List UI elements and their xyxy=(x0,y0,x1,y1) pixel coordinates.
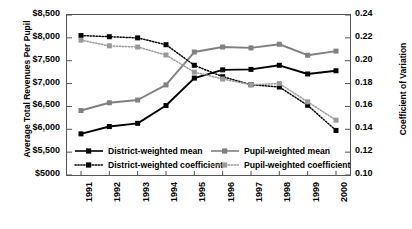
series-marker xyxy=(334,128,339,133)
series-marker xyxy=(249,82,254,87)
series-marker xyxy=(107,124,112,129)
y-axis-left-tick-label: $7,000 xyxy=(32,78,60,87)
y-axis-left-tick-label: $6,000 xyxy=(32,123,60,132)
series-marker xyxy=(220,45,225,50)
series-marker xyxy=(135,121,140,126)
chart-legend: District-weighted mean Pupil-weighted me… xyxy=(74,144,346,172)
y-axis-right-tick-label: 0.22 xyxy=(355,32,373,41)
x-axis-tick-label: 1997 xyxy=(254,182,264,202)
y-axis-left-ticks: $5000$5,500$6,000$6,500$7,000$7,500$8,00… xyxy=(14,0,60,229)
series-marker xyxy=(334,68,339,73)
legend-label: District-weighted coefficient xyxy=(108,161,223,170)
x-axis-tick-label: 1999 xyxy=(311,182,321,202)
series-marker xyxy=(277,81,282,86)
y-axis-left-tick-label: $8,000 xyxy=(32,32,60,41)
y-axis-right-tick-label: 0.10 xyxy=(355,169,373,178)
legend-label: Pupil-weighted coefficient xyxy=(244,161,350,170)
series-marker xyxy=(107,100,112,105)
y-axis-left-tick-label: $7,500 xyxy=(32,55,60,64)
legend-item-pupil-weighted-mean: Pupil-weighted mean xyxy=(210,146,346,156)
series-marker xyxy=(164,82,169,87)
series-marker xyxy=(192,76,197,81)
series-marker xyxy=(164,103,169,108)
series-marker xyxy=(305,99,310,104)
x-axis-tick-label: 1998 xyxy=(282,182,292,202)
y-axis-left-tick-label: $5000 xyxy=(35,169,60,178)
legend-swatch-district-weighted-mean xyxy=(74,146,104,156)
series-marker xyxy=(164,53,169,58)
series-marker xyxy=(135,45,140,50)
series-marker xyxy=(107,34,112,39)
legend-label: Pupil-weighted mean xyxy=(244,147,330,156)
y-axis-left-tick-label: $6,500 xyxy=(32,100,60,109)
y-axis-left-tick-label: $8,500 xyxy=(32,9,60,18)
x-axis-tick-label: 1993 xyxy=(141,182,151,202)
y-axis-left-tick-label: $5,500 xyxy=(32,146,60,155)
y-axis-right-tick-label: 0.18 xyxy=(355,78,373,87)
legend-item-district-weighted-coefficient: District-weighted coefficient xyxy=(74,160,210,170)
series-marker xyxy=(79,108,84,113)
series-marker xyxy=(220,77,225,82)
legend-swatch-pupil-weighted-mean xyxy=(210,146,240,156)
x-axis-tick-label: 1992 xyxy=(112,182,122,202)
legend-swatch-district-weighted-coefficient xyxy=(74,160,104,170)
series-marker xyxy=(249,45,254,50)
chart-figure: Average Total Revenues Per Pupil Coeffic… xyxy=(0,0,412,229)
series-marker xyxy=(135,35,140,40)
series-marker xyxy=(305,71,310,76)
series-marker xyxy=(334,118,339,123)
series-marker xyxy=(135,98,140,103)
legend-swatch-pupil-weighted-coefficient xyxy=(210,160,240,170)
legend-label: District-weighted mean xyxy=(108,147,203,156)
series-marker xyxy=(192,50,197,55)
series-line-1 xyxy=(81,44,336,110)
series-marker xyxy=(107,43,112,48)
legend-item-pupil-weighted-coefficient: Pupil-weighted coefficient xyxy=(210,160,346,170)
series-marker xyxy=(79,131,84,136)
y-axis-right-tick-label: 0.24 xyxy=(355,9,373,18)
series-marker xyxy=(334,49,339,54)
series-marker xyxy=(305,53,310,58)
series-marker xyxy=(277,42,282,47)
series-marker xyxy=(79,33,84,38)
x-axis-tick-label: 2000 xyxy=(339,182,349,202)
y-axis-right-ticks: 0.100.120.140.160.180.200.220.24 xyxy=(355,0,395,229)
series-marker xyxy=(192,70,197,75)
series-marker xyxy=(277,63,282,68)
y-axis-right-tick-label: 0.14 xyxy=(355,123,373,132)
x-axis-tick-label: 1994 xyxy=(169,182,179,202)
x-axis-tick-label: 1996 xyxy=(226,182,236,202)
series-marker xyxy=(164,42,169,47)
series-marker xyxy=(249,67,254,72)
series-marker xyxy=(79,38,84,43)
x-axis-tick-label: 1991 xyxy=(84,182,94,202)
y-axis-right-title: Coefficient of Variation xyxy=(398,4,408,174)
series-marker xyxy=(220,67,225,72)
y-axis-right-tick-label: 0.16 xyxy=(355,100,373,109)
x-axis-ticks: 1991199219931994199519961997199819992000 xyxy=(66,176,351,229)
series-marker xyxy=(192,63,197,68)
y-axis-right-tick-label: 0.20 xyxy=(355,55,373,64)
x-axis-tick-label: 1995 xyxy=(197,182,207,202)
y-axis-right-tick-label: 0.12 xyxy=(355,146,373,155)
legend-item-district-weighted-mean: District-weighted mean xyxy=(74,146,210,156)
